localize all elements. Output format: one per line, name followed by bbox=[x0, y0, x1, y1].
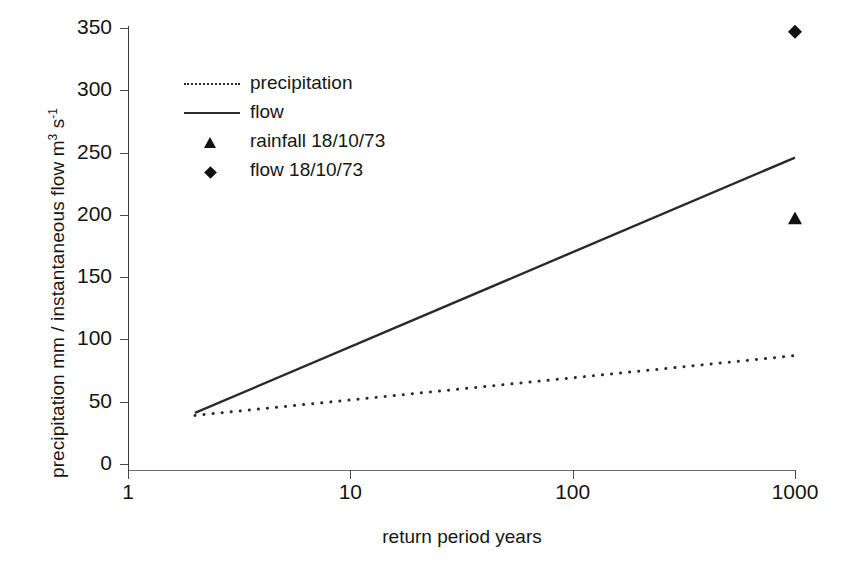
y-axis-tick bbox=[120, 90, 128, 91]
legend-key-flow bbox=[182, 99, 244, 128]
y-axis-tick-label: 100 bbox=[56, 327, 112, 348]
y-axis-tick-label: 300 bbox=[56, 78, 112, 99]
legend-label-flow: flow bbox=[250, 99, 284, 125]
x-axis-tick bbox=[795, 470, 796, 479]
y-axis-tick bbox=[120, 28, 128, 29]
legend-label-flow-event: flow 18/10/73 bbox=[250, 157, 363, 183]
x-axis-tick bbox=[128, 470, 129, 479]
legend-label-precipitation: precipitation bbox=[250, 70, 352, 96]
x-axis-tick-label: 100 bbox=[528, 480, 618, 504]
x-axis-tick-label: 1000 bbox=[750, 480, 840, 504]
y-axis-tick-label: 250 bbox=[56, 141, 112, 162]
y-axis-title-text: precipitation mm / instantaneous flow m bbox=[47, 140, 68, 478]
x-axis-tick-label: 10 bbox=[305, 480, 395, 504]
legend-item-flow-event: flow 18/10/73 bbox=[182, 157, 502, 186]
x-axis-title: return period years bbox=[128, 526, 796, 548]
y-axis-line bbox=[128, 26, 129, 472]
diamond-marker-icon bbox=[204, 166, 217, 179]
dotted-line-icon bbox=[184, 83, 240, 85]
triangle-marker-icon bbox=[204, 137, 216, 148]
legend-item-precipitation: precipitation bbox=[182, 70, 502, 99]
legend-item-rainfall-event: rainfall 18/10/73 bbox=[182, 128, 502, 157]
y-axis-tick-label: 0 bbox=[56, 452, 112, 473]
legend-key-precipitation bbox=[182, 70, 244, 99]
y-axis-title-text-mid bbox=[47, 128, 68, 133]
legend-item-flow: flow bbox=[182, 99, 502, 128]
y-axis-tick-label: 50 bbox=[56, 390, 112, 411]
y-axis-tick bbox=[120, 402, 128, 403]
x-axis-line bbox=[128, 470, 796, 471]
y-axis-title-unit-s: s bbox=[47, 119, 68, 129]
legend-key-flow-event bbox=[182, 157, 244, 186]
y-axis-tick bbox=[120, 277, 128, 278]
marker-triangle-rainfall-event bbox=[788, 212, 802, 225]
legend: precipitation flow rainfall 18/10/73 flo… bbox=[182, 70, 502, 186]
y-axis-tick bbox=[120, 339, 128, 340]
y-axis-title-superscript-minus1: -1 bbox=[46, 108, 60, 119]
x-axis-tick bbox=[573, 470, 574, 479]
y-axis-tick bbox=[120, 153, 128, 154]
flood-frequency-chart: precipitation mm / instantaneous flow m3… bbox=[0, 0, 857, 581]
solid-line-icon bbox=[184, 112, 240, 114]
legend-label-rainfall-event: rainfall 18/10/73 bbox=[250, 128, 385, 154]
y-axis-tick-label: 150 bbox=[56, 265, 112, 286]
x-axis-tick bbox=[350, 470, 351, 479]
y-axis-title-superscript-3: 3 bbox=[46, 134, 60, 141]
y-axis-tick-label: 200 bbox=[56, 203, 112, 224]
x-axis-tick-label: 1 bbox=[83, 480, 173, 504]
y-axis-tick bbox=[120, 215, 128, 216]
marker-diamond-flow-event bbox=[788, 25, 802, 39]
series-line-flow bbox=[195, 158, 795, 413]
y-axis-tick-label: 350 bbox=[56, 16, 112, 37]
legend-key-rainfall-event bbox=[182, 128, 244, 157]
series-line-precipitation bbox=[195, 356, 795, 416]
y-axis-tick bbox=[120, 464, 128, 465]
